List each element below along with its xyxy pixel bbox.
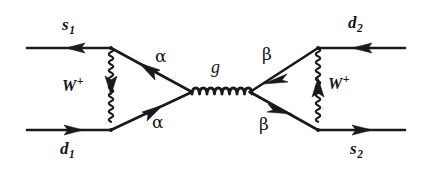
label-d1-subscript: 1	[69, 148, 75, 160]
vertex-top-left	[109, 46, 113, 50]
quark-line-beta-top-group	[250, 48, 318, 92]
vertex-top-right	[316, 46, 320, 50]
external-leg-d2-group	[318, 43, 405, 53]
label-d1: d1	[60, 140, 74, 157]
label-s2-base: s	[350, 139, 357, 158]
w-boson-propagator-right-group	[312, 48, 324, 122]
gluon-vertex-left	[190, 90, 193, 93]
vertex-bottom-right	[316, 128, 320, 132]
gluon-vertex-right	[248, 90, 251, 93]
arrow-head-w-left	[105, 76, 117, 95]
quark-line-alpha-top-group	[111, 48, 192, 92]
external-leg-s1-group	[27, 43, 111, 53]
label-s1-subscript: 1	[69, 24, 75, 36]
external-leg-s2-group	[318, 125, 405, 135]
vertex-bottom-left	[109, 128, 113, 132]
label-alpha-bottom: α	[152, 114, 163, 131]
external-leg-d1-group	[27, 125, 111, 135]
feynman-diagram-figure: s1 d1 d2 s2 W+ W+ α α β β g	[0, 0, 432, 179]
label-s2-subscript: 2	[357, 148, 363, 160]
label-beta-top: β	[262, 46, 272, 63]
gluon-propagator	[192, 88, 252, 94]
label-w-boson-left: W+	[62, 78, 83, 94]
label-gluon: g	[211, 58, 220, 76]
arrow-head-beta-bottom	[267, 104, 292, 114]
label-s1-base: s	[62, 15, 69, 34]
label-w-left-superscript: +	[77, 74, 84, 88]
label-w-right-superscript: +	[343, 72, 350, 86]
gluon-propagator-group	[190, 88, 252, 94]
w-boson-propagator-left-group	[105, 48, 117, 122]
label-d2-base: d	[348, 13, 357, 32]
label-d2-subscript: 2	[357, 22, 363, 34]
label-d2: d2	[348, 14, 362, 31]
label-s2: s2	[350, 140, 362, 157]
label-w-boson-right: W+	[328, 76, 349, 92]
label-w-right-base: W	[328, 75, 342, 92]
label-s1: s1	[62, 16, 74, 33]
label-alpha-top: α	[155, 48, 166, 65]
label-d1-base: d	[60, 139, 69, 158]
label-beta-bottom: β	[259, 116, 269, 133]
quark-line-beta-top	[250, 48, 318, 92]
label-w-left-base: W	[62, 77, 76, 94]
